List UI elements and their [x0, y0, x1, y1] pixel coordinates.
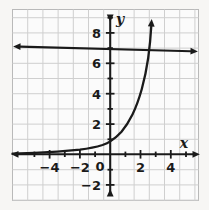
y-tick-label-6: 6 — [92, 56, 101, 71]
x-tick-label-neg2: −2 — [70, 160, 90, 175]
origin-label: 0 — [95, 159, 104, 174]
y-tick-label-neg2: −2 — [81, 178, 101, 193]
x-tick-label-neg4: −4 — [40, 160, 60, 175]
y-tick-label-8: 8 — [92, 26, 101, 41]
x-tick-label-4: 4 — [166, 160, 175, 175]
x-tick-label-2: 2 — [136, 160, 145, 175]
graph-figure: −4 −2 2 4 0 −2 2 4 6 8 y x — [0, 0, 209, 210]
coordinate-plane: −4 −2 2 4 0 −2 2 4 6 8 y x — [0, 0, 209, 210]
y-axis-label: y — [115, 11, 125, 27]
x-axis-label: x — [179, 135, 189, 151]
y-tick-label-2: 2 — [92, 117, 101, 132]
y-tick-label-4: 4 — [92, 87, 101, 102]
